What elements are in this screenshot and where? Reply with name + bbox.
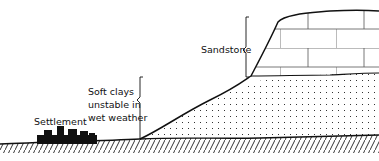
clay-label-line2: unstable in <box>88 99 141 110</box>
clay-label-line3: wet weather <box>88 112 147 123</box>
settlement-buildings <box>37 126 97 144</box>
soft-clay-layer <box>140 73 379 139</box>
sandstone-layer <box>251 10 379 76</box>
sandstone-label: Sandstone <box>201 44 251 55</box>
settlement-label: Settlement <box>34 116 87 127</box>
cross-section-diagram: Sandstone Soft clays unstable in wet wea… <box>0 0 379 161</box>
clay-label-line1: Soft clays <box>88 86 134 97</box>
